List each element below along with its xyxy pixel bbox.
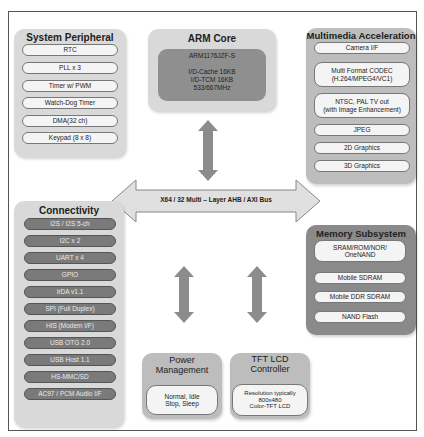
- power-modes: Normal, Idle Stop, Sleep: [146, 385, 218, 415]
- memory-item: Mobile DDR SDRAM: [314, 291, 406, 303]
- connectivity-item: IrDA v1.1: [24, 286, 116, 298]
- connectivity-item: HIS (Modem I/F): [24, 320, 116, 332]
- memory-item: NAND Flash: [314, 311, 406, 323]
- lcd-spec: Resolution typically 800x480 Color-TFT L…: [232, 384, 308, 416]
- connectivity-item: HS-MMC/SD: [24, 371, 116, 383]
- memory-item: SRAM/ROM/NOR/ OneNAND: [314, 240, 406, 262]
- memory-title: Memory Subsystem: [306, 228, 416, 239]
- connectivity-item: AC97 / PCM Audio I/F: [24, 388, 116, 400]
- power-bus-arrow-icon: [174, 266, 194, 323]
- bus-label: X64 / 32 Multi – Layer AHB / AXI Bus: [136, 196, 296, 203]
- lcd-spec-line: Color-TFT LCD: [250, 403, 291, 410]
- connectivity-item: SPI (Full Duplex): [24, 303, 116, 315]
- connectivity-item: USB OTG 2.0: [24, 337, 116, 349]
- lcd-bus-arrow-icon: [247, 266, 267, 323]
- power-title: Power Management: [142, 355, 222, 376]
- connectivity-item: I2S / I2S 5-ch: [24, 218, 116, 230]
- connectivity-item: UART x 4: [24, 252, 116, 264]
- connectivity-item: GPIO: [24, 269, 116, 281]
- power-title-line: Power: [142, 355, 222, 365]
- arm-bus-arrow-icon: [198, 120, 218, 181]
- lcd-spec-line: 800x480: [258, 397, 281, 404]
- power-title-line: Management: [142, 365, 222, 375]
- connectivity-item: I2C x 2: [24, 235, 116, 247]
- lcd-spec-line: Resolution typically: [244, 390, 295, 397]
- connectivity-title: Connectivity: [14, 205, 124, 216]
- lcd-title: TFT LCD Controller: [230, 354, 310, 375]
- connectivity-item: USB Host 1.1: [24, 354, 116, 366]
- memory-item: Mobile SDRAM: [314, 272, 406, 284]
- lcd-controller-panel: TFT LCD Controller Resolution typically …: [230, 353, 310, 419]
- lcd-title-line: Controller: [230, 364, 310, 374]
- power-management-panel: Power Management Normal, Idle Stop, Slee…: [142, 353, 222, 419]
- power-mode-line: Normal, Idle: [164, 393, 199, 400]
- power-mode-line: Stop, Sleep: [165, 400, 199, 407]
- lcd-title-line: TFT LCD: [230, 354, 310, 364]
